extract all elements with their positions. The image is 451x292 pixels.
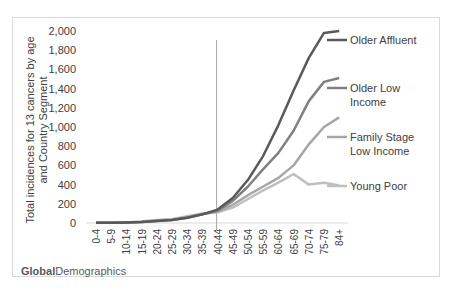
y-tick-label: 1,600 bbox=[48, 63, 76, 75]
y-tick-label: 200 bbox=[58, 198, 76, 210]
y-tick-label: 0 bbox=[70, 217, 76, 229]
x-axis-ticks: 0-45-910-1415-1920-2425-2930-3435-3940-4… bbox=[91, 229, 345, 255]
legend-label-young-poor: Young Poor bbox=[350, 180, 407, 192]
y-tick-label: 1,800 bbox=[48, 44, 76, 56]
y-tick-label: 1,200 bbox=[48, 102, 76, 114]
x-tick-label: 70-74 bbox=[304, 229, 315, 255]
y-tick-label: 400 bbox=[58, 179, 76, 191]
x-tick-label: 45-49 bbox=[228, 229, 239, 255]
inline-legend: Older Affluent Older Low Income Family S… bbox=[327, 34, 416, 192]
series-line-family-stage-low-income bbox=[96, 117, 339, 222]
logo-bold: Global bbox=[21, 265, 55, 277]
y-tick-label: 800 bbox=[58, 140, 76, 152]
series-line-young-poor bbox=[96, 174, 339, 223]
x-tick-label: 35-39 bbox=[197, 229, 208, 255]
legend-label-family-stage-1: Family Stage bbox=[350, 131, 414, 143]
x-tick-label: 50-54 bbox=[243, 229, 254, 255]
x-tick-label: 84+ bbox=[334, 229, 345, 246]
legend-label-family-stage-2: Low Income bbox=[350, 145, 409, 157]
y-tick-label: 1,000 bbox=[48, 121, 76, 133]
x-tick-label: 0-4 bbox=[91, 229, 102, 244]
legend-label-older-low-income-2: Income bbox=[350, 96, 386, 108]
y-tick-label: 2,000 bbox=[48, 25, 76, 37]
logo-regular: Demographics bbox=[55, 265, 126, 277]
series-lines bbox=[96, 31, 339, 223]
y-tick-label: 600 bbox=[58, 159, 76, 171]
x-tick-label: 65-69 bbox=[289, 229, 300, 255]
legend-label-older-low-income-1: Older Low bbox=[350, 82, 400, 94]
x-tick-label: 55-59 bbox=[258, 229, 269, 255]
y-axis-ticks: 02004006008001,0001,2001,4001,6001,8002,… bbox=[48, 25, 76, 229]
x-tick-label: 10-14 bbox=[121, 229, 132, 255]
y-tick-label: 1,400 bbox=[48, 83, 76, 95]
series-line-older-affluent bbox=[96, 31, 339, 223]
x-tick-label: 5-9 bbox=[106, 229, 117, 244]
legend-label-older-affluent: Older Affluent bbox=[350, 34, 416, 46]
x-tick-label: 30-34 bbox=[182, 229, 193, 255]
x-tick-label: 15-19 bbox=[137, 229, 148, 255]
x-tick-label: 25-29 bbox=[167, 229, 178, 255]
x-tick-label: 40-44 bbox=[213, 229, 224, 255]
x-tick-label: 20-24 bbox=[152, 229, 163, 255]
global-demographics-logo: GlobalDemographics bbox=[21, 265, 126, 277]
line-chart: 02004006008001,0001,2001,4001,6001,8002,… bbox=[0, 0, 451, 292]
x-tick-label: 75-79 bbox=[319, 229, 330, 255]
x-tick-label: 60-64 bbox=[273, 229, 284, 255]
series-line-older-low-income bbox=[96, 78, 339, 223]
